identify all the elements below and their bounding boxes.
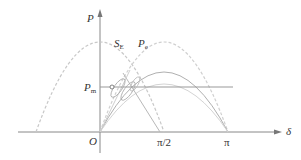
x-axis-label: δ (286, 126, 291, 137)
pm-label-sub: m (91, 87, 96, 95)
y-axis-label: P (87, 13, 94, 24)
s-e-label: SE (114, 38, 124, 51)
x-tick-pi: π (224, 137, 230, 148)
pe-label: Pe (138, 38, 148, 51)
pe-label-sub: e (145, 43, 148, 51)
x-axis-arrow-icon (274, 130, 282, 135)
descending-line (123, 73, 160, 132)
pe-label-main: P (138, 37, 145, 49)
pm-label: Pm (84, 82, 96, 95)
x-tick-pi-half: π/2 (157, 137, 171, 148)
origin-label: O (89, 136, 97, 147)
operating-point (110, 85, 114, 89)
power-angle-diagram (0, 0, 301, 160)
y-axis-arrow-icon (98, 9, 103, 17)
s-e-label-sub: E (120, 43, 124, 51)
pm-label-main: P (84, 81, 91, 93)
